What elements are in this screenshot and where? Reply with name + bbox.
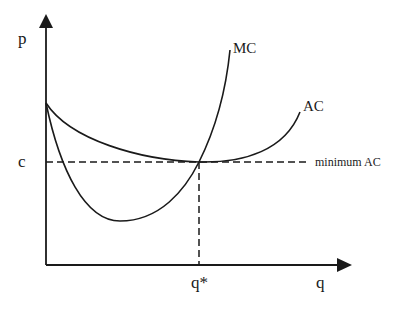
minimum-ac-label: minimum AC <box>315 155 381 169</box>
c-label: c <box>18 152 26 171</box>
cost-curve-diagram: p c MC AC minimum AC q* q <box>0 0 398 309</box>
mc-label: MC <box>233 40 256 56</box>
mc-curve <box>46 50 230 221</box>
axes <box>39 14 352 272</box>
q-star-label: q* <box>191 273 208 292</box>
y-axis-arrow-icon <box>39 14 53 28</box>
ac-curve <box>46 103 300 162</box>
y-axis-label: p <box>18 29 27 48</box>
x-axis-arrow-icon <box>337 258 352 272</box>
x-axis-label: q <box>316 273 325 292</box>
ac-label: AC <box>303 98 324 114</box>
